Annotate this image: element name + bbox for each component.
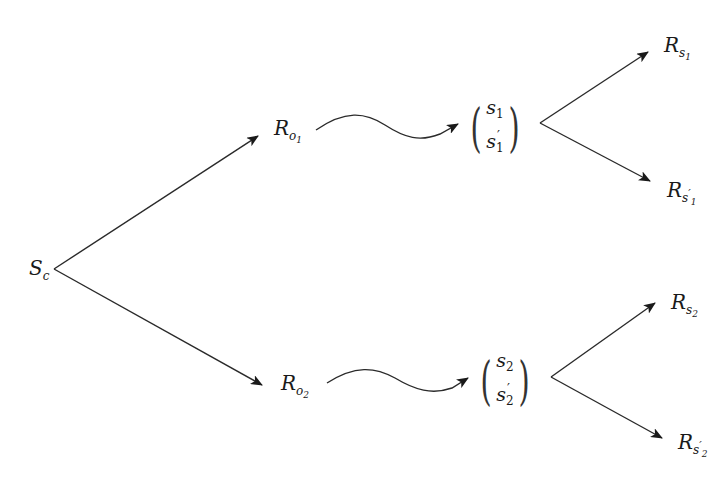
right-paren: ) xyxy=(508,102,519,154)
vector-s1-bottom: s′1 xyxy=(486,125,503,159)
vector-s1-top: s1 xyxy=(486,96,503,125)
node-s-c-sub: c xyxy=(43,269,50,283)
node-s-c: Sc xyxy=(29,258,49,282)
vector-s2-bottom: s′2 xyxy=(496,378,513,412)
right-paren: ) xyxy=(518,355,529,407)
node-s-c-base: S xyxy=(29,256,43,280)
node-r-o2-base: R xyxy=(281,371,296,395)
node-r-o1: Ro1 xyxy=(274,118,302,145)
node-r-s1: Rs1 xyxy=(664,35,691,62)
edge-vec2-rs2-arrow xyxy=(551,303,655,377)
wavy-arrow-ro2-vec2 xyxy=(327,370,468,392)
node-r-s2-prime: Rs′2 xyxy=(678,432,707,459)
edge-vec1-rs1-arrow xyxy=(540,52,648,123)
node-r-o1-base: R xyxy=(274,116,289,140)
node-r-o2-subsub: 2 xyxy=(303,390,309,400)
edge-sc-ro1-arrow xyxy=(54,136,258,269)
left-paren: ( xyxy=(471,102,482,154)
diagram-canvas xyxy=(0,0,726,491)
edge-sc-ro2-arrow xyxy=(54,269,262,385)
node-r-o2: Ro2 xyxy=(281,373,309,400)
edge-vec1-rs1p-arrow xyxy=(540,123,650,181)
left-paren: ( xyxy=(481,355,492,407)
vector-s2-top: s2 xyxy=(496,349,513,378)
wavy-arrow-ro1-vec1 xyxy=(316,115,458,138)
node-r-s1-prime: Rs′1 xyxy=(667,180,696,207)
edge-vec2-rs2p-arrow xyxy=(551,377,662,438)
node-r-o1-subsub: 1 xyxy=(296,135,302,145)
vector-s1: ( s1 s′1 ) xyxy=(466,96,524,159)
node-r-s2: Rs2 xyxy=(671,292,698,319)
vector-s2: ( s2 s′2 ) xyxy=(476,349,534,412)
